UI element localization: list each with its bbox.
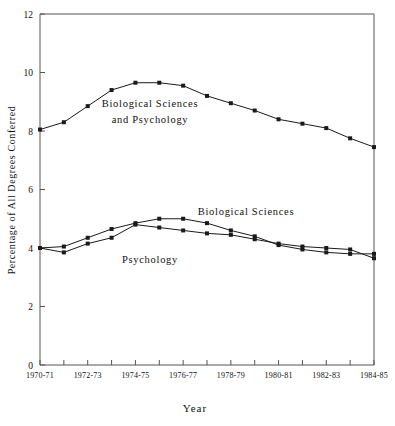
- data-point: [157, 81, 161, 85]
- x-tick-label: 1970-71: [26, 371, 54, 380]
- data-point: [86, 104, 90, 108]
- annot-combined: and Psychology: [112, 114, 189, 125]
- data-point: [133, 81, 137, 85]
- chart-figure: Percentage of All Degrees Conferred Year…: [0, 0, 395, 426]
- data-point: [110, 88, 114, 92]
- data-point: [324, 250, 328, 254]
- series-line: [40, 225, 374, 259]
- y-tick-label: 0: [28, 361, 33, 371]
- data-point: [110, 227, 114, 231]
- series-group: [38, 81, 376, 260]
- data-point: [62, 245, 66, 249]
- data-point: [157, 217, 161, 221]
- data-point: [38, 246, 42, 250]
- data-point: [110, 236, 114, 240]
- x-tick-label: 1980-81: [265, 371, 293, 380]
- y-tick-label: 12: [24, 10, 34, 20]
- plot-frame: [40, 14, 374, 365]
- x-tick-label: 1972-73: [74, 371, 102, 380]
- x-axis-ticks: 1970-711972-731974-751976-771978-791980-…: [26, 360, 388, 380]
- data-point: [300, 122, 304, 126]
- data-point: [277, 242, 281, 246]
- data-point: [181, 228, 185, 232]
- data-point: [372, 252, 376, 256]
- y-tick-label: 8: [28, 127, 33, 137]
- series-1: [38, 81, 376, 149]
- series-3: [38, 223, 376, 261]
- x-tick-label: 1984-85: [360, 371, 388, 380]
- y-axis-ticks: 024681012: [24, 10, 46, 371]
- data-point: [62, 250, 66, 254]
- data-point: [157, 226, 161, 230]
- data-point: [62, 120, 66, 124]
- x-tick-label: 1982-83: [312, 371, 340, 380]
- data-point: [205, 231, 209, 235]
- data-point: [253, 237, 257, 241]
- data-point: [277, 117, 281, 121]
- axes: [40, 14, 374, 365]
- data-point: [205, 94, 209, 98]
- data-point: [133, 223, 137, 227]
- annot-biological: Biological Sciences: [198, 206, 294, 217]
- y-tick-label: 2: [28, 302, 33, 312]
- y-axis-label: Percentage of All Degrees Conferred: [6, 106, 17, 275]
- series-line: [40, 83, 374, 147]
- data-point: [181, 217, 185, 221]
- data-point: [348, 252, 352, 256]
- x-tick-label: 1974-75: [121, 371, 149, 380]
- x-tick-label: 1976-77: [169, 371, 197, 380]
- line-chart: Percentage of All Degrees Conferred Year…: [0, 0, 395, 426]
- annot-combined: Biological Sciences: [102, 98, 198, 109]
- data-point: [229, 233, 233, 237]
- data-point: [86, 242, 90, 246]
- data-point: [229, 228, 233, 232]
- data-point: [229, 101, 233, 105]
- data-point: [372, 145, 376, 149]
- data-point: [205, 221, 209, 225]
- x-axis-label: Year: [183, 402, 207, 414]
- y-tick-label: 6: [28, 185, 33, 195]
- data-point: [181, 84, 185, 88]
- y-tick-label: 10: [24, 68, 34, 78]
- x-tick-label: 1978-79: [217, 371, 245, 380]
- y-tick-label: 4: [28, 244, 33, 254]
- data-point: [324, 246, 328, 250]
- data-point: [348, 247, 352, 251]
- data-point: [253, 109, 257, 113]
- data-point: [300, 245, 304, 249]
- annot-psychology: Psychology: [122, 254, 178, 265]
- data-point: [324, 126, 328, 130]
- data-point: [86, 236, 90, 240]
- data-point: [348, 136, 352, 140]
- data-point: [38, 128, 42, 132]
- data-point: [372, 256, 376, 260]
